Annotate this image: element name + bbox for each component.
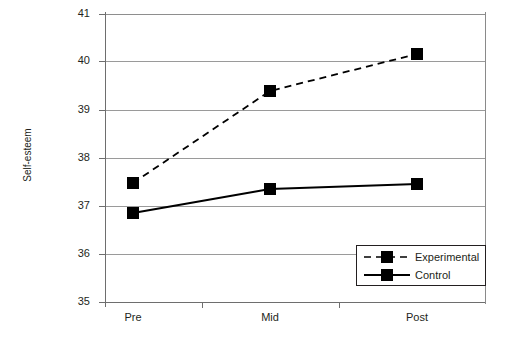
legend-label-control: Control xyxy=(415,269,450,281)
data-point-experimental-mid xyxy=(264,85,276,97)
legend-key-experimental-dashed-line-icon xyxy=(364,248,410,266)
legend-key-control-solid-line-icon xyxy=(364,266,410,284)
data-point-experimental-post xyxy=(411,48,423,60)
data-point-control-pre xyxy=(127,207,139,219)
series-line-experimental xyxy=(133,54,417,183)
data-point-control-post xyxy=(411,178,423,190)
legend-label-experimental: Experimental xyxy=(415,251,479,263)
legend-item-control: Control xyxy=(357,266,487,284)
legend-item-experimental: Experimental xyxy=(357,248,487,266)
line-chart-figure: 41 40 39 38 37 36 35 Self-esteem Pre Mid… xyxy=(0,0,506,344)
series-layer xyxy=(0,0,506,344)
chart-legend: Experimental Control xyxy=(356,245,486,286)
data-point-experimental-pre xyxy=(127,177,139,189)
data-point-control-mid xyxy=(264,183,276,195)
